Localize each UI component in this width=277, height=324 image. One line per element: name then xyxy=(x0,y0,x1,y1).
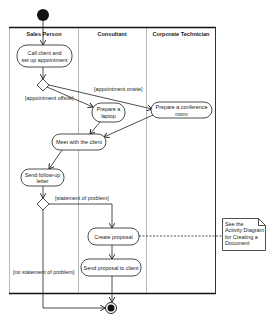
guard-appointment-offsite: [appointment offsite] xyxy=(25,95,74,101)
activity-send-proposal: Send proposal to client xyxy=(81,259,141,276)
note-see-document-diagram: See the Activity Diagram for Creating a … xyxy=(223,219,266,251)
decision-appointment-type xyxy=(37,79,49,91)
edge-meet-to-followup xyxy=(49,150,62,169)
svg-text:Meet with the client: Meet with the client xyxy=(56,139,103,145)
lane-header-consultant: Consultant xyxy=(97,31,126,37)
activity-call-client: Call client and set up appointment xyxy=(17,45,72,67)
decision-problem-statement xyxy=(37,198,49,210)
edge-laptop-to-meet xyxy=(90,122,100,134)
svg-text:for Creating a: for Creating a xyxy=(225,234,258,240)
svg-text:Send follow-up: Send follow-up xyxy=(25,172,61,178)
activity-create-proposal: Create proposal xyxy=(88,228,139,245)
guard-statement-of-problem: [statement of problem] xyxy=(55,195,109,201)
svg-text:Prepare a conference: Prepare a conference xyxy=(156,104,208,110)
lane-header-sales-person: Sales Person xyxy=(26,31,62,37)
activity-send-follow-up: Send follow-up letter xyxy=(21,169,64,186)
svg-text:Call client and: Call client and xyxy=(28,50,62,56)
guard-appointment-onsite: [appointment onsite] xyxy=(94,86,143,92)
svg-text:Send proposal to client: Send proposal to client xyxy=(84,265,139,271)
lane-header-corporate-technician: Corporate Technician xyxy=(152,31,210,37)
svg-text:Create proposal: Create proposal xyxy=(94,234,132,240)
svg-text:laptop: laptop xyxy=(101,113,116,119)
activity-prepare-laptop: Prepare a laptop xyxy=(92,103,125,122)
activity-meet-client: Meet with the client xyxy=(52,134,106,150)
svg-text:letter: letter xyxy=(37,178,49,184)
initial-node xyxy=(37,9,49,21)
svg-text:See the: See the xyxy=(225,221,244,227)
guard-no-statement-of-problem: [no statement of problem] xyxy=(13,269,75,275)
svg-text:Document: Document xyxy=(225,240,250,246)
svg-text:Prepare a: Prepare a xyxy=(97,106,121,112)
svg-text:room: room xyxy=(175,111,188,117)
final-node xyxy=(106,303,117,314)
activity-prepare-conference-room: Prepare a conference room xyxy=(151,102,212,118)
svg-text:Activity Diagram: Activity Diagram xyxy=(225,227,264,233)
activity-diagram: Sales Person Consultant Corporate Techni… xyxy=(0,0,277,324)
edge-problem-to-create xyxy=(49,204,112,228)
svg-text:set up appointment: set up appointment xyxy=(22,57,68,63)
